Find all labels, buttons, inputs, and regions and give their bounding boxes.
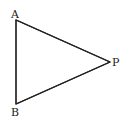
- side-ap: [16, 20, 110, 62]
- vertex-label-a: A: [10, 8, 20, 21]
- triangle-diagram: A B P: [0, 0, 128, 122]
- vertex-label-p: P: [112, 56, 120, 69]
- side-bp: [16, 62, 110, 104]
- vertex-label-b: B: [11, 106, 19, 119]
- triangle-abp: [16, 20, 110, 104]
